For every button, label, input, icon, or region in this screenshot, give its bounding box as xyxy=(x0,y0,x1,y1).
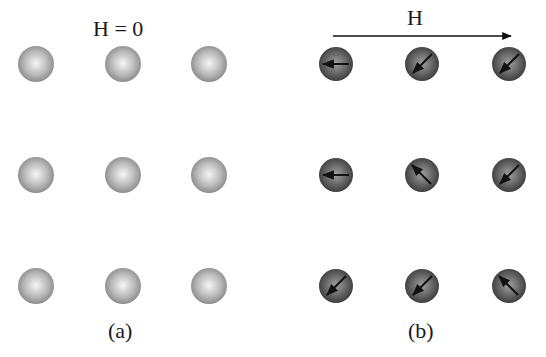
panel-b-title: H xyxy=(407,7,423,29)
atom-sphere xyxy=(105,157,141,193)
diagram-canvas xyxy=(0,0,546,357)
atom-sphere xyxy=(105,46,141,82)
atom-sphere xyxy=(18,46,54,82)
panel-a-lattice xyxy=(18,46,227,304)
atom-sphere xyxy=(191,268,227,304)
panel-a-title: H = 0 xyxy=(93,18,143,40)
atom-sphere xyxy=(18,157,54,193)
atom-sphere xyxy=(191,46,227,82)
atom-sphere xyxy=(105,268,141,304)
atom-sphere xyxy=(191,157,227,193)
panel-b-caption: (b) xyxy=(408,320,434,342)
atom-sphere xyxy=(18,268,54,304)
panel-a-caption: (a) xyxy=(108,320,132,342)
panel-b-lattice xyxy=(319,47,526,303)
